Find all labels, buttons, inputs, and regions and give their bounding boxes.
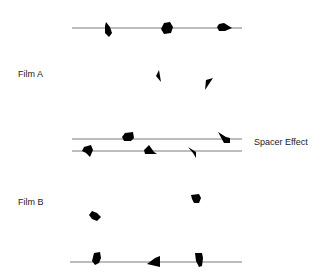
particle-icon [161,22,173,34]
particle-icon [205,78,213,90]
particle-icon [195,253,203,267]
particle-icon [92,252,101,265]
spacer-effect-label: Spacer Effect [254,137,308,147]
particle-icon [218,132,230,143]
bottom-line-group [70,252,242,267]
film-a-particles [156,70,213,90]
top-line-group [72,22,242,37]
particle-icon [156,70,161,82]
film-b-label: Film B [18,197,44,207]
particle-icon [105,22,112,37]
particle-icon [89,211,101,221]
particle-icon [82,145,93,157]
spacer-lines-group [72,132,242,158]
particle-icon [188,147,196,158]
film-a-label: Film A [18,69,43,79]
particle-icon [122,132,134,141]
particle-icon [217,23,232,31]
particle-icon [144,145,157,154]
particle-icon [191,194,201,203]
film-b-particles [89,194,201,221]
